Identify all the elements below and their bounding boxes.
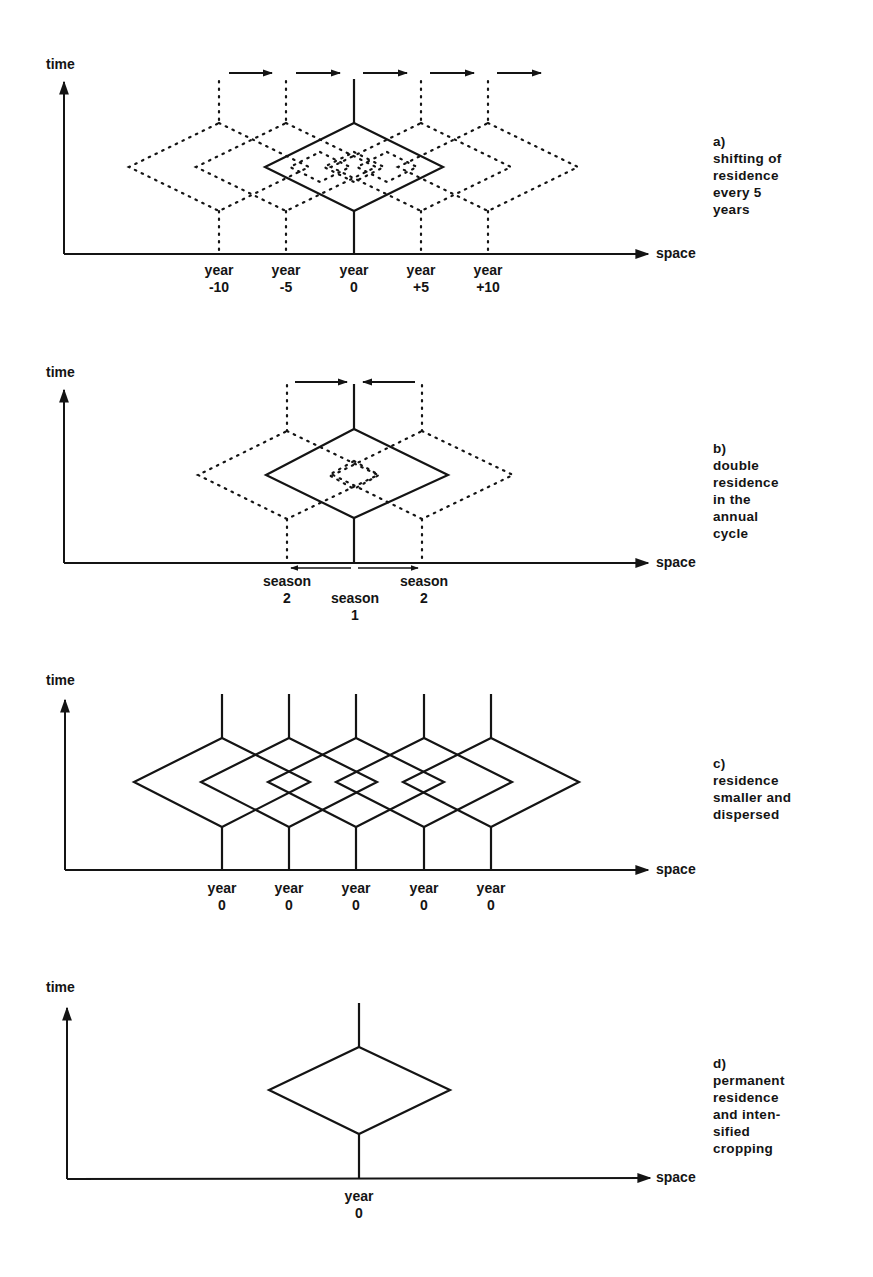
tick-label: year0 [192, 880, 252, 914]
panel-c [65, 694, 648, 870]
current-residence [265, 79, 443, 254]
tick-label: season1 [325, 590, 385, 624]
season-1-residence [266, 384, 448, 563]
tick-label: year0 [326, 880, 386, 914]
caption-a: a) shifting of residence every 5 years [713, 133, 782, 218]
tick-label: season2 [394, 573, 454, 607]
caption-b: b) double residence in the annual cycle [713, 440, 779, 542]
space-axis-label-a: space [656, 245, 696, 261]
panel-a [64, 73, 648, 254]
panel-b [64, 382, 648, 568]
tick-label: year0 [259, 880, 319, 914]
permanent-residence [269, 1003, 450, 1179]
space-axis-label-c: space [656, 861, 696, 877]
dotted-residences [198, 385, 513, 562]
space-axis-label-b: space [656, 554, 696, 570]
panel-d [67, 1003, 650, 1179]
time-axis-label-c: time [46, 672, 75, 688]
tick-label: year0 [329, 1188, 389, 1222]
tick-label: year-10 [189, 262, 249, 296]
time-axis-label-d: time [46, 979, 75, 995]
tick-label: year+5 [391, 262, 451, 296]
tick-label: year0 [394, 880, 454, 914]
tick-label: year-5 [256, 262, 316, 296]
tick-label: year0 [324, 262, 384, 296]
space-axis-label-d: space [656, 1169, 696, 1185]
time-axis-label-a: time [46, 56, 75, 72]
dispersed-residences [134, 694, 579, 870]
caption-d: d) permanent residence and inten- sified… [713, 1055, 785, 1157]
tick-label: year+10 [458, 262, 518, 296]
caption-c: c) residence smaller and dispersed [713, 755, 791, 823]
tick-label: year0 [461, 880, 521, 914]
time-axis-label-b: time [46, 364, 75, 380]
tick-label: season2 [257, 573, 317, 607]
